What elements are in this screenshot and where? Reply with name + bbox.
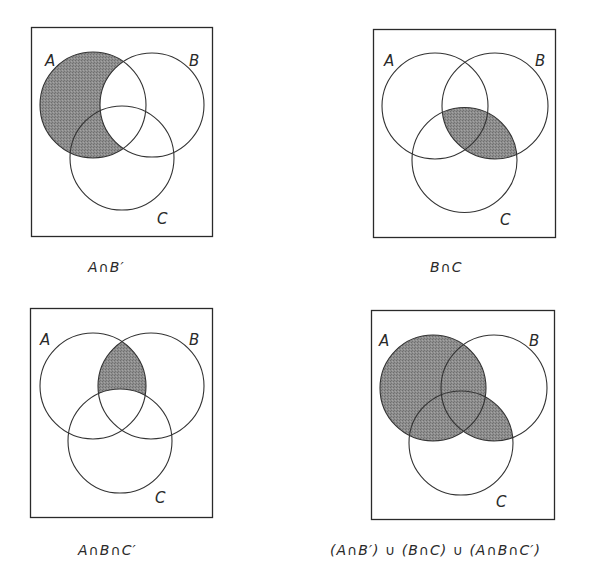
set-label-a: A <box>44 52 55 70</box>
caption: B∩C <box>430 259 463 275</box>
set-label-b: B <box>535 52 545 70</box>
set-label-b: B <box>529 332 539 350</box>
set-label-b: B <box>189 331 199 349</box>
set-label-c: C <box>155 489 166 507</box>
venn-diagram-figure: A B C A∩B′ A B C B∩C A B C A∩B∩C′ <box>0 0 608 586</box>
set-label-c: C <box>496 493 507 511</box>
caption: A∩B′ <box>87 259 125 275</box>
set-label-b: B <box>189 52 199 70</box>
panel-a-and-b-and-not-c: A B C A∩B∩C′ <box>31 309 213 559</box>
caption: (A∩B′) ∪ (B∩C) ∪ (A∩B∩C′) <box>330 542 541 558</box>
set-label-a: A <box>378 332 389 350</box>
panel-b-and-c: A B C B∩C <box>374 30 556 276</box>
caption: A∩B∩C′ <box>77 542 137 558</box>
panel-union: A B C (A∩B′) ∪ (B∩C) ∪ (A∩B∩C′) <box>330 311 555 559</box>
panel-a-and-not-b: A B C A∩B′ <box>32 28 213 276</box>
set-label-c: C <box>157 210 168 228</box>
set-label-a: A <box>383 52 394 70</box>
set-label-a: A <box>39 331 50 349</box>
set-label-c: C <box>500 211 511 229</box>
